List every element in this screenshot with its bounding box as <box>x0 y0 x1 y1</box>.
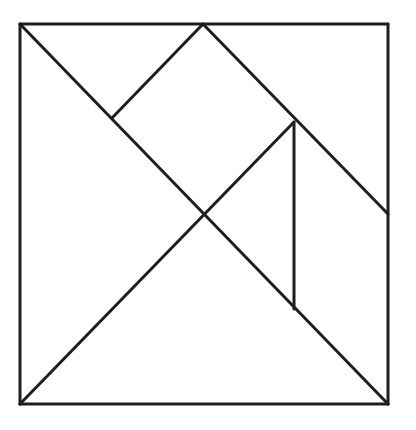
tangram-diagram <box>0 0 416 430</box>
